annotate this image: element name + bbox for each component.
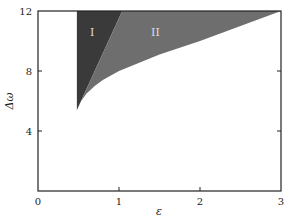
y-tick-label: 4: [26, 126, 32, 137]
regions: [77, 11, 281, 110]
y-tick-label: 12: [19, 6, 32, 17]
x-tick-label: 1: [116, 196, 122, 207]
y-tick-label: 8: [26, 66, 32, 77]
y-axis-label: Δω: [3, 93, 16, 111]
region-label: II: [151, 26, 160, 39]
region-label: I: [90, 26, 94, 39]
x-tick-label: 2: [197, 196, 203, 207]
phase-diagram-chart: III 01234812 ε Δω: [0, 0, 288, 221]
x-axis-label: ε: [156, 205, 162, 218]
x-tick-label: 0: [35, 196, 41, 207]
x-tick-label: 3: [278, 196, 284, 207]
